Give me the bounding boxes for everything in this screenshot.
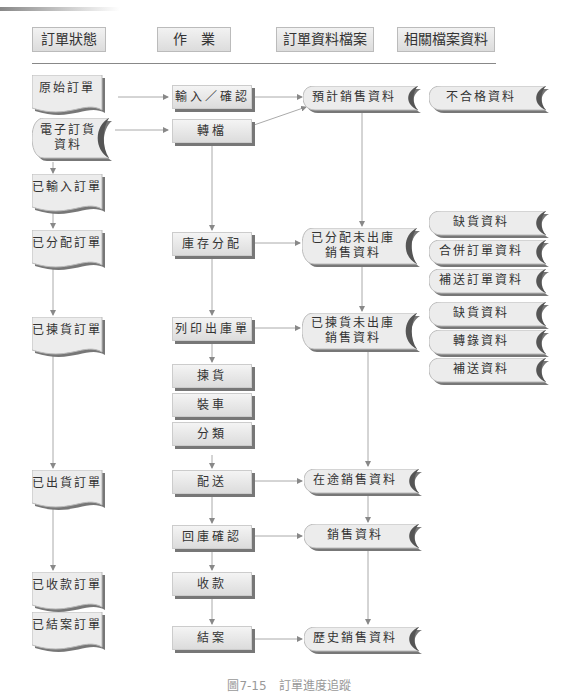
- operation-deliver[interactable]: 配送: [172, 470, 252, 494]
- related-file-backorders[interactable]: 補送訂單資料: [429, 269, 547, 293]
- file-allocated-unshipped[interactable]: 已分配未出庫 銷售資料: [302, 228, 418, 264]
- operation-sort[interactable]: 分類: [172, 422, 252, 446]
- related-file-resend[interactable]: 補送資料: [429, 358, 547, 382]
- related-file-transcribed[interactable]: 轉錄資料: [429, 330, 547, 354]
- operation-input-confirm[interactable]: 輸入／確認: [172, 85, 252, 109]
- order-state-edi-data[interactable]: 電子訂貨 資料: [32, 118, 110, 162]
- related-file-rejected[interactable]: 不合格資料: [429, 86, 547, 110]
- operation-return-confirm[interactable]: 回庫確認: [172, 525, 252, 549]
- file-sales[interactable]: 銷售資料: [304, 524, 420, 548]
- file-history-sales[interactable]: 歷史銷售資料: [304, 627, 420, 651]
- operation-pick[interactable]: 揀貨: [172, 364, 252, 388]
- related-file-stockout-1[interactable]: 缺貨資料: [429, 211, 547, 235]
- operation-convert[interactable]: 轉檔: [172, 119, 252, 143]
- figure-caption: 圖7-15 訂單進度追蹤: [0, 676, 578, 693]
- related-file-merged-orders[interactable]: 合併訂單資料: [429, 240, 547, 264]
- file-forecast-sales[interactable]: 預計銷售資料: [303, 86, 419, 110]
- operation-collect-payment[interactable]: 收款: [172, 572, 252, 596]
- order-state-original[interactable]: 原始訂單: [32, 75, 106, 117]
- related-file-stockout-2[interactable]: 缺貨資料: [429, 302, 547, 326]
- operation-close[interactable]: 結案: [172, 626, 252, 650]
- file-in-transit-sales[interactable]: 在途銷售資料: [304, 469, 420, 493]
- operation-load[interactable]: 裝車: [172, 393, 252, 417]
- operation-allocate[interactable]: 庫存分配: [172, 232, 252, 256]
- file-picked-unshipped[interactable]: 已揀貨未出庫 銷售資料: [302, 313, 418, 349]
- operation-print-picklist[interactable]: 列印出庫單: [172, 317, 252, 341]
